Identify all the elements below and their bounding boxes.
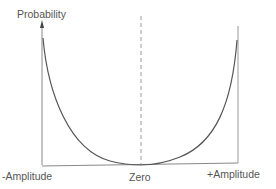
probability-diagram <box>0 0 276 189</box>
probability-curve <box>43 38 237 165</box>
x-label-positive-amplitude: +Amplitude <box>207 168 260 180</box>
y-axis-label: Probability <box>17 8 66 20</box>
x-label-zero: Zero <box>129 171 151 183</box>
y-axis-arrow-icon <box>40 20 44 28</box>
x-label-negative-amplitude: -Amplitude <box>2 170 52 182</box>
